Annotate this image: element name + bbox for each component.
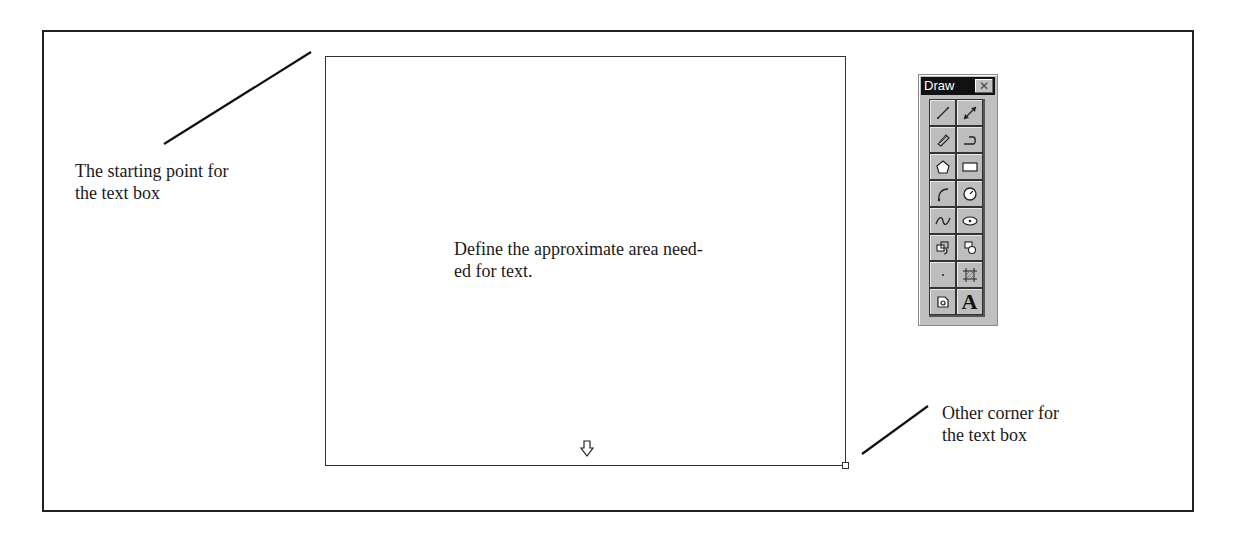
tool-fill-area[interactable] xyxy=(956,261,983,288)
tool-ellipse[interactable] xyxy=(956,207,983,234)
end-label-line-1: Other corner for xyxy=(942,402,1059,424)
end-label-line-2: the text box xyxy=(942,424,1059,446)
start-leader-line xyxy=(164,52,311,144)
tool-polygon[interactable] xyxy=(929,153,956,180)
start-label-line-1: The starting point for xyxy=(75,160,228,182)
tool-circle[interactable] xyxy=(956,180,983,207)
down-arrow-cursor-icon xyxy=(580,440,594,458)
tool-move-object[interactable] xyxy=(956,234,983,261)
tool-line[interactable] xyxy=(929,99,956,126)
text-icon: A xyxy=(962,289,978,315)
copy-object-icon xyxy=(934,239,952,257)
tool-polyline[interactable] xyxy=(956,126,983,153)
tool-image[interactable] xyxy=(929,288,956,315)
tool-text[interactable]: A xyxy=(956,288,983,315)
other-corner-label: Other corner for the text box xyxy=(942,402,1059,446)
draw-tools-grid: A xyxy=(929,99,985,317)
start-label-line-2: the text box xyxy=(75,182,228,204)
point-icon xyxy=(934,266,952,284)
text-box-line-1: Define the approximate area need- xyxy=(454,238,814,260)
tool-point[interactable] xyxy=(929,261,956,288)
tool-arc[interactable] xyxy=(929,180,956,207)
hatch-icon xyxy=(961,266,979,284)
start-point-label: The starting point for the text box xyxy=(75,160,228,204)
close-button[interactable]: ✕ xyxy=(975,79,993,93)
draw-toolbar-titlebar[interactable]: Draw ✕ xyxy=(921,77,995,95)
end-leader-line xyxy=(862,406,928,454)
curve-icon xyxy=(934,212,952,230)
arc-icon xyxy=(934,185,952,203)
circle-icon xyxy=(961,185,979,203)
line-icon xyxy=(934,104,952,122)
rectangle-icon xyxy=(961,158,979,176)
double-arrow-line-icon xyxy=(961,104,979,122)
tool-spline[interactable] xyxy=(929,207,956,234)
text-box-content: Define the approximate area need- ed for… xyxy=(454,238,814,282)
tool-copy-object[interactable] xyxy=(929,234,956,261)
tool-freehand[interactable] xyxy=(929,126,956,153)
resize-handle[interactable] xyxy=(842,462,849,469)
draw-toolbar: Draw ✕ xyxy=(918,74,998,326)
image-icon xyxy=(934,293,952,311)
text-box-line-2: ed for text. xyxy=(454,260,814,282)
move-object-icon xyxy=(961,239,979,257)
tool-rectangle[interactable] xyxy=(956,153,983,180)
pencil-icon xyxy=(934,131,952,149)
pentagon-icon xyxy=(934,158,952,176)
ellipse-icon xyxy=(961,212,979,230)
polyline-icon xyxy=(961,131,979,149)
draw-toolbar-title: Draw xyxy=(924,78,954,93)
tool-arrow-line[interactable] xyxy=(956,99,983,126)
